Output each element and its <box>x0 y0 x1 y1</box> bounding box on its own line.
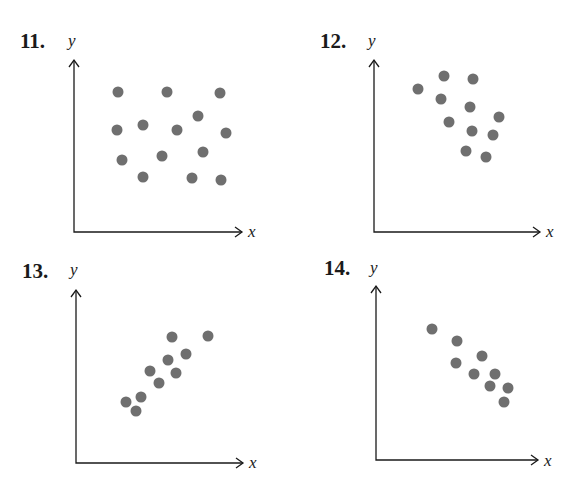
axis-lines <box>76 290 243 463</box>
data-point <box>121 397 132 408</box>
y-axis-label: y <box>66 31 76 50</box>
data-point <box>488 130 499 141</box>
data-point <box>154 378 165 389</box>
x-axis-label: x <box>543 451 552 470</box>
data-point <box>467 126 478 137</box>
data-point <box>499 397 510 408</box>
data-point <box>198 147 209 158</box>
axis-lines <box>376 286 538 460</box>
data-point <box>145 366 156 377</box>
data-point <box>481 152 492 163</box>
scatter-plot-11: 11. y x <box>20 29 256 241</box>
data-point <box>163 355 174 366</box>
data-point <box>172 125 183 136</box>
data-point <box>193 111 204 122</box>
axes <box>369 60 540 237</box>
data-point <box>131 406 142 417</box>
y-axis-label: y <box>366 31 376 50</box>
data-point <box>439 71 450 82</box>
data-point <box>171 368 182 379</box>
data-point <box>162 87 173 98</box>
x-axis-label: x <box>545 222 554 241</box>
data-point <box>503 383 514 394</box>
y-axis-label: y <box>368 258 378 277</box>
data-point <box>469 369 480 380</box>
scatter-plot-14: 14. y x <box>324 256 552 470</box>
data-point <box>167 332 178 343</box>
data-point <box>444 117 455 128</box>
axes <box>69 60 242 237</box>
data-point <box>477 351 488 362</box>
scatter-plot-12: 12. y x <box>320 29 554 241</box>
data-point <box>113 87 124 98</box>
data-point <box>138 120 149 131</box>
data-point <box>452 336 463 347</box>
x-axis-label: x <box>248 453 257 472</box>
data-point <box>485 381 496 392</box>
data-points <box>427 324 514 408</box>
data-point <box>117 155 128 166</box>
y-axis-label: y <box>68 260 78 279</box>
data-point <box>494 112 505 123</box>
data-point <box>427 324 438 335</box>
data-point <box>413 84 424 95</box>
scatter-plots-figure: 11. y x 12. y x 13. y x 14. y x <box>0 0 581 489</box>
data-point <box>436 94 447 105</box>
data-point <box>221 128 232 139</box>
data-point <box>181 349 192 360</box>
data-point <box>157 151 168 162</box>
data-points <box>413 71 505 163</box>
plot-number-label: 11. <box>20 29 45 53</box>
data-point <box>215 88 226 99</box>
data-point <box>203 331 214 342</box>
data-points <box>121 331 214 417</box>
data-point <box>187 173 198 184</box>
scatter-plot-13: 13. y x <box>22 259 257 472</box>
data-point <box>490 369 501 380</box>
data-point <box>138 172 149 183</box>
plot-number-label: 14. <box>324 256 350 280</box>
data-point <box>461 146 472 157</box>
plot-number-label: 12. <box>320 29 346 53</box>
data-point <box>465 102 476 113</box>
data-point <box>451 358 462 369</box>
axis-lines <box>74 60 242 232</box>
plot-number-label: 13. <box>22 259 48 283</box>
data-point <box>136 392 147 403</box>
data-point <box>112 125 123 136</box>
data-point <box>468 74 479 85</box>
axes <box>371 286 538 465</box>
data-points <box>112 87 232 186</box>
axis-lines <box>374 60 540 232</box>
data-point <box>216 175 227 186</box>
x-axis-label: x <box>247 222 256 241</box>
